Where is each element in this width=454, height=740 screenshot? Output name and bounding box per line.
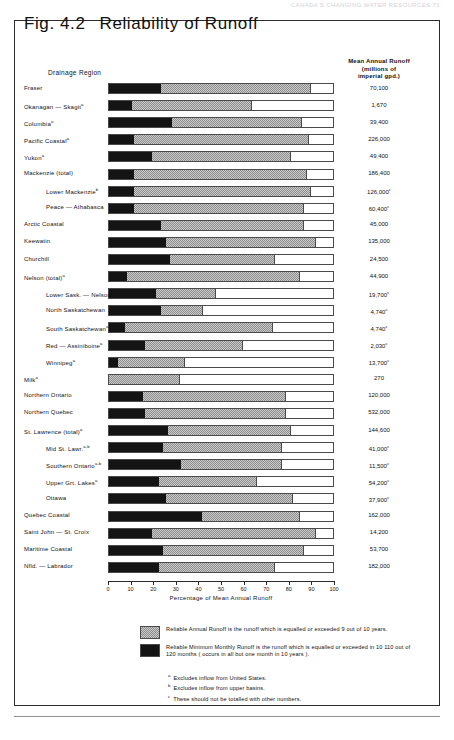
x-axis-tick-label: 10 — [128, 586, 134, 592]
x-axis-tick — [153, 581, 154, 585]
footnote: cThese should not be totalled with other… — [168, 693, 418, 703]
x-axis-tick-label: 70 — [263, 586, 269, 592]
x-axis-tick-label: 0 — [106, 586, 109, 592]
bar-segment-reliable-min-monthly-runoff — [109, 409, 145, 418]
row-label: Mackenzie (total) — [24, 170, 73, 176]
figure-title: Fig. 4.2Reliability of Runoff — [24, 14, 258, 34]
row-value-mean-annual-runoff: 39,400 — [336, 119, 422, 125]
row-label: Peace — Athabasca — [46, 204, 104, 210]
table-row — [108, 220, 334, 231]
row-label: Winnipega — [46, 358, 75, 366]
table-row — [108, 511, 334, 522]
row-label: Lower Sask. — Nelsona — [46, 290, 114, 298]
bar-segment-reliable-annual-runoff — [109, 204, 304, 213]
bar-segment-reliable-min-monthly-runoff — [109, 101, 132, 110]
bar-segment-reliable-min-monthly-runoff — [109, 238, 166, 247]
table-row — [108, 288, 334, 299]
x-axis-tick-label: 100 — [329, 586, 338, 592]
bar-segment-reliable-min-monthly-runoff — [109, 529, 152, 538]
bar-segment-reliable-min-monthly-runoff — [109, 306, 161, 315]
row-label: Maritime Coastal — [24, 546, 72, 552]
bar-segment-reliable-annual-runoff — [109, 187, 311, 196]
row-value-mean-annual-runoff: 49,400 — [336, 153, 422, 159]
bar-segment-reliable-min-monthly-runoff — [109, 443, 163, 452]
row-label: Red — Assiniboinea — [46, 341, 103, 349]
row-value-mean-annual-runoff: 162,000 — [336, 512, 422, 518]
bar-segment-reliable-annual-runoff — [109, 135, 309, 144]
table-row — [108, 271, 334, 282]
bar-segment-reliable-min-monthly-runoff — [109, 272, 127, 281]
x-axis-tick-label: 50 — [218, 586, 224, 592]
bar-segment-reliable-min-monthly-runoff — [109, 546, 163, 555]
legend-swatch-hatch — [140, 626, 160, 639]
table-row — [108, 151, 334, 162]
x-axis-tick — [266, 581, 267, 585]
x-axis-tick — [221, 581, 222, 585]
runoff-header-line-3: imperial gpd.) — [336, 73, 422, 81]
x-axis-label: Percentage of Mean Annual Runoff — [108, 595, 334, 601]
row-value-mean-annual-runoff: 182,000 — [336, 563, 422, 569]
row-value-mean-annual-runoff: 70,100 — [336, 85, 422, 91]
row-label: Churchill — [24, 256, 49, 262]
table-row — [108, 100, 334, 111]
bar-segment-reliable-annual-runoff — [109, 375, 180, 384]
bar-segment-reliable-annual-runoff — [109, 170, 307, 179]
legend-label: Reliable Annual Runoff is the runoff whi… — [166, 626, 414, 633]
bar-segment-reliable-min-monthly-runoff — [109, 494, 166, 503]
row-value-mean-annual-runoff: 24,500 — [336, 256, 422, 262]
table-row — [108, 203, 334, 214]
table-row — [108, 117, 334, 128]
bar-segment-reliable-min-monthly-runoff — [109, 477, 159, 486]
table-row — [108, 562, 334, 573]
row-label: Keewatin — [24, 238, 50, 244]
row-label: Arctic Coastal — [24, 221, 64, 227]
row-label: Fraser — [24, 85, 43, 91]
table-row — [108, 322, 334, 333]
row-label: Northern Ontario — [24, 392, 72, 398]
row-label: Saint John — St. Croix — [24, 529, 89, 535]
row-value-mean-annual-runoff: 13,700c — [336, 358, 422, 366]
x-axis-tick — [131, 581, 132, 585]
legend: Reliable Annual Runoff is the runoff whi… — [140, 626, 414, 662]
x-axis-tick — [198, 581, 199, 585]
row-value-mean-annual-runoff: 11,500c — [336, 461, 422, 469]
row-value-mean-annual-runoff: 135,000 — [336, 238, 422, 244]
table-row — [108, 254, 334, 265]
row-value-mean-annual-runoff: 120,000 — [336, 392, 422, 398]
table-row — [108, 305, 334, 316]
row-value-mean-annual-runoff: 37,900c — [336, 495, 422, 503]
table-row — [108, 237, 334, 248]
table-row — [108, 83, 334, 94]
bar-segment-reliable-annual-runoff — [109, 272, 300, 281]
table-row — [108, 186, 334, 197]
bar-segment-reliable-min-monthly-runoff — [109, 426, 168, 435]
row-label: North Saskatchewan — [46, 307, 105, 313]
row-label: Nfld. — Labrador — [24, 563, 73, 569]
x-axis-tick — [289, 581, 290, 585]
row-value-mean-annual-runoff: 4,740c — [336, 307, 422, 315]
figure-number: Fig. 4.2 — [24, 14, 86, 33]
row-value-mean-annual-runoff: 45,000 — [336, 221, 422, 227]
row-value-mean-annual-runoff: 270 — [336, 375, 422, 381]
legend-label: Reliable Minimum Monthly Runoff is the r… — [166, 644, 414, 658]
footnotes: aExcludes inflow from United States.bExc… — [168, 672, 418, 703]
bar-plot-area — [108, 83, 334, 581]
bar-segment-reliable-min-monthly-runoff — [109, 358, 118, 367]
legend-swatch-dark — [140, 644, 160, 657]
bar-segment-reliable-min-monthly-runoff — [109, 204, 134, 213]
row-label: Columbiaa — [24, 119, 53, 127]
bar-segment-reliable-min-monthly-runoff — [109, 289, 156, 298]
x-axis-tick-label: 80 — [286, 586, 292, 592]
row-label: Yukona — [24, 153, 44, 161]
page-bottom-rule — [14, 716, 440, 717]
row-value-mean-annual-runoff: 53,700 — [336, 546, 422, 552]
table-row — [108, 169, 334, 180]
row-value-mean-annual-runoff: 226,000 — [336, 136, 422, 142]
bar-segment-reliable-min-monthly-runoff — [109, 84, 161, 93]
row-label: Nelson (total)a — [24, 273, 65, 281]
x-axis-tick — [176, 581, 177, 585]
x-axis-tick-label: 30 — [173, 586, 179, 592]
row-value-mean-annual-runoff: 532,000 — [336, 409, 422, 415]
row-label: Southern Ontarioa,b — [46, 461, 101, 469]
table-row — [108, 340, 334, 351]
